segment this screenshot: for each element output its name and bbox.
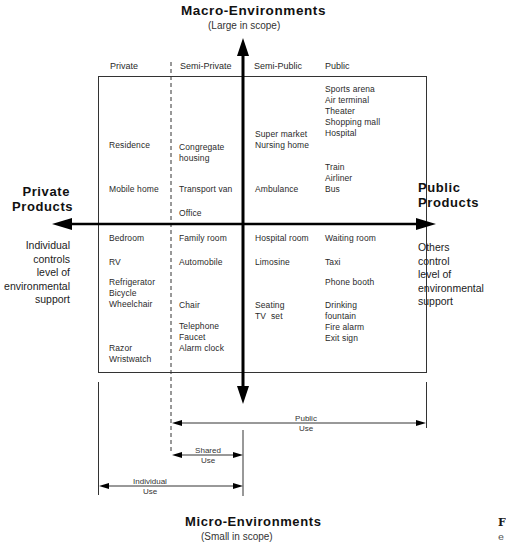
cell-ambulance: Ambulance (255, 184, 298, 195)
shared-use-label: Shared Use (188, 446, 228, 466)
cell-taxi: Taxi (325, 257, 341, 268)
private-products-title-line1: Private (12, 184, 70, 199)
cell-train-group: Train Airliner Bus (325, 162, 352, 195)
cell-drinking-fountain-group: Drinking fountain Fire alarm Exit sign (325, 300, 364, 344)
macro-title: Macro-Environments (181, 3, 326, 18)
cell-supermarket-group: Super market Nursing home (255, 129, 309, 151)
cell-bedroom: Bedroom (109, 233, 144, 244)
micro-subtitle: (Small in scope) (201, 531, 273, 542)
cell-phone-booth: Phone booth (325, 277, 374, 288)
individual-use-label: Individual Use (125, 477, 175, 497)
public-products-title: Public Products (418, 180, 479, 210)
column-header-private: Private (110, 61, 138, 71)
private-products-title: Private Products (12, 184, 70, 214)
cell-transport-van: Transport van (179, 184, 232, 195)
cell-waiting-room: Waiting room (325, 233, 376, 244)
cell-office: Office (179, 208, 202, 219)
cell-sports-arena-group: Sports arena Air terminal Theater Shoppi… (325, 84, 380, 139)
cell-limosine: Limosine (255, 257, 290, 268)
private-products-title-line2: Products (12, 199, 70, 214)
cell-automobile: Automobile (179, 257, 223, 268)
cell-refrigerator-group: Refrigerator Bicycle Wheelchair (109, 277, 155, 310)
private-products-description: Individual controls level of environment… (4, 239, 70, 307)
public-products-title-line1: Public (418, 180, 479, 195)
micro-title: Micro-Environments (185, 514, 321, 529)
column-header-public: Public (325, 61, 350, 71)
cell-rv: RV (109, 257, 121, 268)
caption-fragment-line1: F (498, 516, 506, 529)
public-use-label: Public Use (286, 414, 326, 434)
cell-hospital-room: Hospital room (255, 233, 309, 244)
column-header-semi-public: Semi-Public (254, 61, 302, 71)
cell-seating-group: Seating TV set (255, 300, 285, 322)
macro-subtitle: (Large in scope) (208, 20, 280, 31)
cell-mobile-home: Mobile home (109, 184, 159, 195)
cell-congregate-housing: Congregate housing (179, 142, 224, 164)
column-header-semi-private: Semi-Private (180, 61, 232, 71)
cell-chair: Chair (179, 300, 200, 311)
cell-telephone-group: Telephone Faucet Alarm clock (179, 321, 224, 354)
caption-fragment-line2: e (498, 531, 504, 542)
cell-family-room: Family room (179, 233, 227, 244)
cell-residence: Residence (109, 140, 150, 151)
cell-razor-group: Razor Wristwatch (109, 343, 151, 365)
public-products-description: Others control level of environmental su… (418, 241, 484, 309)
public-products-title-line2: Products (418, 195, 479, 210)
